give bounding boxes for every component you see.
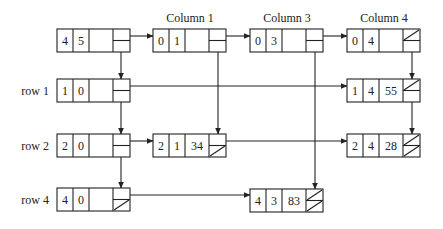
node-col3-row: 0 — [255, 34, 261, 48]
node-e24-value: 28 — [385, 139, 397, 153]
node-row4-col: 0 — [78, 193, 84, 207]
edges — [121, 36, 412, 195]
node-row2-row: 2 — [62, 139, 68, 153]
node-row2-col: 0 — [78, 139, 84, 153]
row-1-label: row 1 — [21, 84, 49, 98]
node-e14-row: 1 — [352, 84, 358, 98]
node-entry-1-4: 1 4 55 — [347, 79, 420, 102]
column-1-label: Column 1 — [166, 11, 214, 25]
node-head-row: 4 — [62, 34, 68, 48]
node-e43-row: 4 — [255, 194, 261, 208]
node-row-1: 1 0 — [57, 79, 130, 102]
node-e14-col: 4 — [368, 84, 374, 98]
node-entry-4-3: 4 3 83 — [250, 189, 323, 212]
node-col1-row: 0 — [158, 34, 164, 48]
node-row-4: 4 0 — [57, 188, 130, 211]
node-row4-row: 4 — [62, 193, 68, 207]
node-row1-row: 1 — [62, 84, 68, 98]
sparse-matrix-diagram: Column 1 Column 3 Column 4 row 1 row 2 r… — [0, 0, 443, 229]
row-2-label: row 2 — [21, 139, 49, 153]
node-head: 4 5 — [57, 29, 130, 52]
node-head-col: 5 — [78, 34, 84, 48]
node-column-4: 0 4 — [347, 29, 420, 52]
node-col4-col: 4 — [368, 34, 374, 48]
node-row1-col: 0 — [78, 84, 84, 98]
node-e24-row: 2 — [352, 139, 358, 153]
node-e14-value: 55 — [385, 84, 397, 98]
column-3-label: Column 3 — [263, 11, 311, 25]
node-entry-2-4: 2 4 28 — [347, 134, 420, 157]
node-col4-row: 0 — [352, 34, 358, 48]
node-e21-value: 34 — [191, 139, 203, 153]
node-row-2: 2 0 — [57, 134, 130, 157]
node-entry-2-1: 2 1 34 — [153, 134, 226, 157]
node-e21-col: 1 — [174, 139, 180, 153]
node-column-3: 0 3 — [250, 29, 323, 52]
node-e43-col: 3 — [271, 194, 277, 208]
node-e24-col: 4 — [368, 139, 374, 153]
node-column-1: 0 1 — [153, 29, 226, 52]
node-col1-col: 1 — [174, 34, 180, 48]
column-4-label: Column 4 — [360, 11, 408, 25]
row-4-label: row 4 — [21, 193, 49, 207]
node-e21-row: 2 — [158, 139, 164, 153]
node-col3-col: 3 — [271, 34, 277, 48]
node-e43-value: 83 — [288, 194, 300, 208]
